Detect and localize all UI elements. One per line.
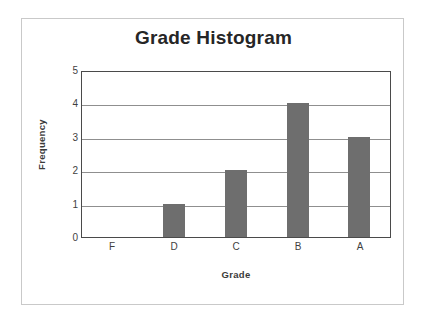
y-axis-tick-label: 5 <box>52 66 78 76</box>
bar-slot <box>82 72 144 237</box>
plot-area <box>81 71 391 238</box>
bar-a[interactable] <box>348 137 370 237</box>
bar-c[interactable] <box>225 170 247 237</box>
x-axis-tick-labels: FDCBA <box>81 241 391 252</box>
x-axis-tick-label: C <box>205 241 267 252</box>
y-axis-title: Frequency <box>36 115 47 175</box>
y-axis-tick-label: 3 <box>52 133 78 143</box>
y-axis-tick-label: 1 <box>52 200 78 210</box>
y-axis-tick-labels: 543210 <box>48 71 78 238</box>
chart-frame: Grade Histogram Frequency 543210 FDCBA G… <box>21 18 404 305</box>
y-axis-tick-label: 0 <box>52 233 78 243</box>
x-axis-title: Grade <box>81 269 391 280</box>
bar-slot <box>267 72 329 237</box>
bar-b[interactable] <box>287 103 309 237</box>
bar-slot <box>144 72 206 237</box>
y-axis-tick-label: 4 <box>52 99 78 109</box>
y-axis-tick-label: 2 <box>52 166 78 176</box>
bar-series <box>82 72 390 237</box>
x-axis-tick-label: F <box>81 241 143 252</box>
x-axis-tick-label: D <box>143 241 205 252</box>
x-axis-tick-label: A <box>329 241 391 252</box>
chart-title: Grade Histogram <box>22 27 405 49</box>
bar-slot <box>328 72 390 237</box>
bar-slot <box>205 72 267 237</box>
bar-d[interactable] <box>163 204 185 237</box>
x-axis-tick-label: B <box>267 241 329 252</box>
